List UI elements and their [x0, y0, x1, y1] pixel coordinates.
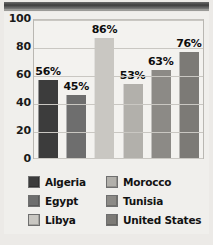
y-axis-tick-label: 0: [24, 154, 31, 164]
bar-algeria[interactable]: 56%: [38, 80, 58, 158]
y-axis-tick-label: 100: [9, 14, 31, 24]
chart-panel: 020406080100 56%45%86%53%63%76% AlgeriaM…: [4, 12, 209, 234]
legend-label: Egypt: [45, 195, 78, 207]
legend-swatch-icon: [106, 195, 118, 207]
top-band-edge: [4, 9, 209, 11]
bar-tunisia[interactable]: 53%: [123, 84, 143, 158]
bar-egypt[interactable]: 86%: [94, 38, 114, 158]
bar-value-label: 86%: [92, 23, 117, 36]
bar-slot: 86%: [94, 20, 114, 158]
plot-area-wrapper: 020406080100 56%45%86%53%63%76%: [33, 19, 205, 167]
gridline: [34, 104, 203, 105]
chart-page: 020406080100 56%45%86%53%63%76% AlgeriaM…: [0, 0, 213, 245]
legend-label: United States: [123, 214, 201, 226]
y-axis-tick-label: 40: [16, 98, 31, 108]
legend-item-morocco[interactable]: Morocco: [106, 176, 206, 188]
bar-slot: 45%: [66, 20, 86, 158]
bar-libya[interactable]: 63%: [151, 70, 171, 158]
legend-swatch-icon: [28, 195, 40, 207]
gridline: [34, 48, 203, 49]
bar-series: 56%45%86%53%63%76%: [34, 20, 203, 158]
y-axis: 020406080100: [5, 19, 31, 159]
legend-label: Libya: [45, 214, 76, 226]
y-axis-tick-label: 80: [16, 42, 31, 52]
gridline: [34, 76, 203, 77]
chart-legend: AlgeriaMoroccoEgyptTunisiaLibyaUnited St…: [28, 172, 206, 229]
bar-slot: 63%: [151, 20, 171, 158]
legend-label: Algeria: [45, 176, 86, 188]
legend-item-egypt[interactable]: Egypt: [28, 195, 106, 207]
bar-value-label: 45%: [64, 80, 89, 93]
gridline: [34, 20, 203, 21]
legend-swatch-icon: [28, 214, 40, 226]
plot-area: 56%45%86%53%63%76%: [33, 19, 204, 159]
y-axis-tick-label: 20: [16, 126, 31, 136]
legend-item-united-states[interactable]: United States: [106, 214, 206, 226]
legend-label: Morocco: [123, 176, 171, 188]
y-axis-tick-label: 60: [16, 70, 31, 80]
legend-swatch-icon: [106, 214, 118, 226]
bar-value-label: 63%: [148, 55, 173, 68]
gridline: [34, 158, 203, 159]
legend-label: Tunisia: [123, 195, 163, 207]
bar-slot: 76%: [179, 20, 199, 158]
bar-slot: 53%: [123, 20, 143, 158]
bar-slot: 56%: [38, 20, 58, 158]
legend-swatch-icon: [106, 176, 118, 188]
legend-swatch-icon: [28, 176, 40, 188]
legend-item-libya[interactable]: Libya: [28, 214, 106, 226]
legend-item-tunisia[interactable]: Tunisia: [106, 195, 206, 207]
gridline: [34, 132, 203, 133]
top-decorative-band: [4, 2, 209, 9]
legend-item-algeria[interactable]: Algeria: [28, 176, 106, 188]
